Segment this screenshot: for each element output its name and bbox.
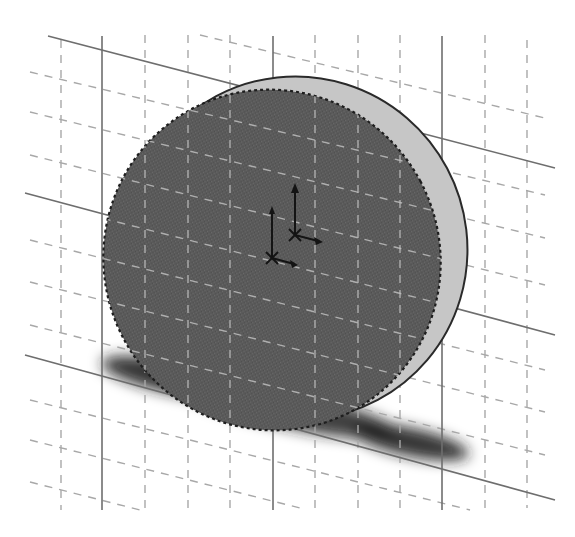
graphics-viewport[interactable] [0,0,575,537]
disc-front-face[interactable] [30,30,545,508]
model-canvas[interactable] [0,0,575,537]
